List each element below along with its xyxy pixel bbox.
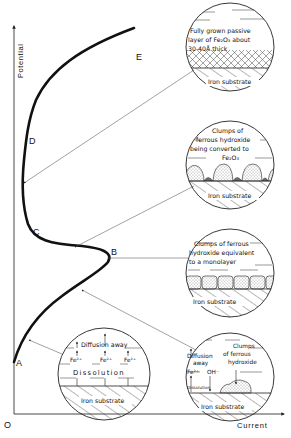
point-label-d: D [29, 136, 36, 146]
inset-dissolution: Diffusion away Fe²⁺ Fe²⁺ Fe²⁺ Dissolutio… [55, 328, 155, 426]
point-label-b: B [111, 247, 117, 257]
svg-text:Fe²⁺ Fe²⁺ Fe²⁺: Fe²⁺ Fe²⁺ Fe²⁺ [70, 357, 136, 363]
polarization-curve [14, 28, 134, 362]
x-axis-label: Current [237, 421, 268, 430]
svg-text:Iron substrate: Iron substrate [201, 403, 244, 410]
svg-text:Dissolution: Dissolution [73, 369, 125, 377]
svg-text:Clumps of ferrous hydrox: Clumps of ferrous hydroxide equivalent t… [189, 240, 256, 266]
svg-text:Dissolution: Dissolution [187, 385, 210, 390]
point-label-a: A [16, 358, 22, 368]
point-label-c: C [33, 227, 40, 237]
point-label-e: E [136, 52, 142, 62]
svg-text:Iron substrate: Iron substrate [208, 78, 251, 85]
svg-text:Iron substrate: Iron substrate [208, 192, 251, 199]
origin-label: O [4, 420, 11, 430]
inset-clumps-forming: Diffusion away Fe²⁺ OH⁻ Clumps of ferrou… [185, 333, 275, 423]
svg-text:Iron substrate: Iron substrate [81, 397, 124, 404]
svg-text:Clumps of ferrous hydrox: Clumps of ferrous hydroxide being conver… [190, 127, 252, 161]
y-axis-label: Potential [16, 43, 25, 78]
pointer-passive-layer [24, 70, 194, 183]
pointer-lines [24, 70, 196, 354]
inset-converting-clumps: Clumps of ferrous hydroxide being conver… [185, 121, 276, 211]
inset-monolayer: Clumps of ferrous hydroxide equivalent t… [185, 229, 278, 319]
inset-passive-layer: Fully grown passive layer of Fe₂O₃ about… [185, 3, 275, 98]
pointer-converting-clumps [75, 186, 194, 247]
svg-text:Iron substrate: Iron substrate [193, 298, 236, 305]
svg-text:Diffusion away: Diffusion away [81, 341, 128, 349]
passivation-diagram: Potential Current O E D C B A Fully grow [0, 0, 291, 438]
pointer-dissolution [29, 340, 62, 354]
